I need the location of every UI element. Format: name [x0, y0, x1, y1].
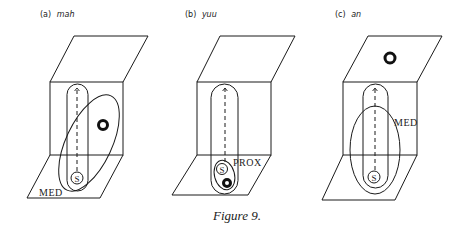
- speaker-label: S: [74, 174, 79, 184]
- upper-plane: [50, 36, 148, 82]
- region-label-prox: PROX: [233, 157, 262, 168]
- panel-c-label: (c) an: [335, 10, 361, 19]
- panel-b: (b) yuu S PROX: [172, 10, 295, 195]
- medial-region-ellipse: [46, 86, 132, 200]
- upper-plane: [197, 36, 295, 82]
- figure-9-diagram: (a) mah S MED (b) yuu: [0, 0, 465, 228]
- figure-caption: Figure 9.: [212, 208, 261, 223]
- vertical-plane: [50, 82, 123, 155]
- panel-c: (c) an S MED: [322, 10, 442, 200]
- panel-a: (a) mah S MED: [27, 10, 148, 200]
- region-label-med: MED: [394, 117, 418, 128]
- panel-b-label: (b) yuu: [185, 10, 217, 19]
- vertical-plane: [197, 82, 271, 155]
- region-label-med: MED: [39, 187, 63, 198]
- object-ring: [224, 180, 231, 187]
- panel-a-label: (a) mah: [40, 10, 74, 19]
- object-ring: [385, 53, 395, 63]
- upper-plane: [343, 36, 442, 82]
- speaker-label: S: [371, 173, 376, 183]
- object-ring: [99, 121, 108, 130]
- speaker-label: S: [219, 165, 224, 175]
